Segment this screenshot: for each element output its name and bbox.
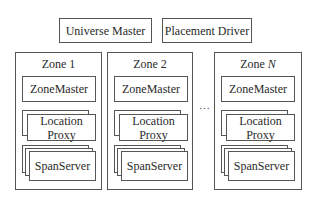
zone-2-title: Zone 2 bbox=[108, 57, 192, 72]
location-proxy-label: LocationProxy bbox=[40, 114, 83, 142]
zone-2: Zone 2 ZoneMaster LocationProxy SpanServ… bbox=[107, 52, 193, 190]
zone-master-label: ZoneMaster bbox=[122, 82, 180, 96]
location-proxy-label: LocationProxy bbox=[132, 114, 175, 142]
zone-1: Zone 1 ZoneMaster LocationProxy SpanServ… bbox=[15, 52, 102, 190]
span-server-box: SpanServer bbox=[228, 151, 295, 181]
location-proxy-box: LocationProxy bbox=[119, 114, 188, 141]
zone-master-box: ZoneMaster bbox=[114, 76, 188, 102]
zone-master-box: ZoneMaster bbox=[221, 76, 295, 102]
placement-driver-label: Placement Driver bbox=[165, 24, 249, 38]
zone-master-label: ZoneMaster bbox=[30, 82, 88, 96]
zone-master-box: ZoneMaster bbox=[22, 76, 96, 102]
zone-n: Zone N ZoneMaster LocationProxy SpanServ… bbox=[214, 52, 302, 190]
placement-driver-box: Placement Driver bbox=[162, 18, 252, 43]
span-server-label: SpanServer bbox=[234, 159, 289, 173]
span-server-label: SpanServer bbox=[127, 159, 182, 173]
location-proxy-box: LocationProxy bbox=[226, 114, 295, 141]
span-server-box: SpanServer bbox=[121, 151, 188, 181]
span-server-label: SpanServer bbox=[35, 159, 90, 173]
zone-master-label: ZoneMaster bbox=[229, 82, 287, 96]
location-proxy-box: LocationProxy bbox=[27, 114, 96, 141]
zone-n-title: Zone N bbox=[215, 57, 301, 72]
location-proxy-label: LocationProxy bbox=[239, 114, 282, 142]
universe-master-label: Universe Master bbox=[66, 24, 146, 38]
zone-1-title: Zone 1 bbox=[16, 57, 101, 72]
span-server-box: SpanServer bbox=[29, 151, 96, 181]
ellipsis: … bbox=[199, 99, 210, 111]
universe-master-box: Universe Master bbox=[59, 18, 152, 43]
